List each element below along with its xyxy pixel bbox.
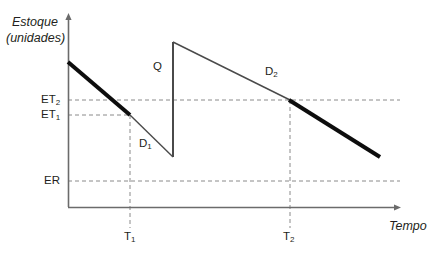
y-tick-et1-sub: 1 bbox=[56, 113, 60, 122]
curve-d1-sub: 1 bbox=[147, 142, 151, 151]
x-tick-label-t2: T2 bbox=[283, 231, 294, 243]
y-tick-er-base: ER bbox=[44, 174, 60, 186]
x-tick-t1-base: T bbox=[124, 230, 131, 242]
y-tick-label-et1: ET1 bbox=[41, 109, 60, 121]
x-tick-t2-sub: 2 bbox=[290, 235, 294, 244]
y-tick-label-et2: ET2 bbox=[41, 94, 60, 106]
curve-label-d2: D2 bbox=[265, 66, 278, 78]
y-tick-label-er: ER bbox=[44, 175, 60, 187]
y-axis-arrow-icon bbox=[65, 13, 71, 20]
thick-segment-1 bbox=[68, 62, 130, 115]
x-axis-arrow-icon bbox=[394, 204, 401, 210]
y-tick-et2-base: ET bbox=[41, 93, 56, 105]
curve-d2-sub: 2 bbox=[273, 70, 277, 79]
y-axis-title-line2: (unidades) bbox=[6, 32, 65, 45]
x-tick-t2-base: T bbox=[283, 230, 290, 242]
chart-canvas: Estoque (unidades) Tempo ET2 ET1 ER T1 T… bbox=[0, 0, 442, 257]
y-axis-title-line1: Estoque bbox=[12, 16, 58, 29]
y-tick-et2-sub: 2 bbox=[56, 98, 60, 107]
curve-q-base: Q bbox=[153, 60, 162, 72]
x-tick-t1-sub: 1 bbox=[131, 235, 135, 244]
reference-lines-group bbox=[68, 100, 400, 228]
thick-segment-2 bbox=[289, 100, 380, 157]
y-tick-et1-base: ET bbox=[41, 108, 56, 120]
x-axis-title: Tempo bbox=[389, 220, 427, 233]
curve-label-q: Q bbox=[153, 61, 162, 73]
inventory-chart-svg bbox=[0, 0, 442, 257]
curve-label-d1: D1 bbox=[139, 138, 152, 150]
x-tick-label-t1: T1 bbox=[124, 231, 135, 243]
